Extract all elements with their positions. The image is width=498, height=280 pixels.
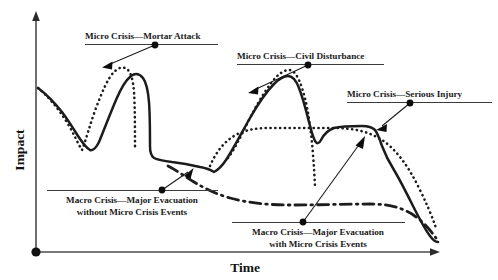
annotation-label-macro-without-micro-line2: without Micro Crisis Events — [77, 207, 188, 217]
annotation-arrowhead-mortar-attack — [102, 62, 113, 70]
annotation-leader-serious-injury — [382, 103, 410, 126]
annotation-arrowhead-civil-disturbance — [248, 87, 259, 95]
annotation-arrowhead-serious-injury — [376, 124, 387, 132]
annotation-label-macro-without-micro-line1: Macro Crisis—Major Evacuation — [66, 195, 198, 205]
x-axis-title: Time — [230, 260, 260, 275]
annotation-label-serious-injury: Micro Crisis—Serious Injury — [347, 89, 463, 99]
annotation-anchor-dot-macro-without-micro — [159, 187, 166, 194]
annotation-anchor-dot-serious-injury — [407, 100, 414, 107]
annotation-label-civil-disturbance: Micro Crisis—Civil Disturbance — [237, 51, 364, 61]
annotation-leader-macro-with-micro — [303, 142, 361, 222]
annotation-leader-civil-disturbance — [254, 65, 308, 90]
chart-canvas: Impact Time Micro Crisis—Mortar Attack — [0, 0, 498, 280]
curve-dotted-segment-3 — [210, 128, 436, 228]
annotation-civil-disturbance: Micro Crisis—Civil Disturbance — [237, 51, 384, 95]
annotation-label-mortar-attack: Micro Crisis—Mortar Attack — [85, 31, 201, 41]
crisis-impact-chart: Impact Time Micro Crisis—Mortar Attack — [0, 0, 498, 280]
annotation-label-macro-with-micro-line1: Macro Crisis—Major Evacuation — [252, 227, 384, 237]
annotation-leader-macro-without-micro — [162, 172, 188, 190]
annotation-anchor-dot-macro-with-micro — [300, 219, 307, 226]
y-axis-arrowhead — [32, 11, 40, 21]
annotation-anchor-dot-civil-disturbance — [305, 62, 312, 69]
axes-group — [31, 11, 440, 257]
curve-dotted-segment-1 — [38, 68, 135, 150]
annotation-label-macro-with-micro-line2: with Micro Crisis Events — [269, 239, 367, 249]
annotation-macro-without-micro: Macro Crisis—Major Evacuation without Mi… — [47, 168, 218, 217]
annotation-mortar-attack: Micro Crisis—Mortar Attack — [85, 31, 218, 70]
origin-dot — [31, 247, 40, 256]
y-axis-title: Impact — [12, 129, 27, 171]
annotation-leader-mortar-attack — [108, 45, 155, 65]
x-axis-arrowhead — [430, 248, 440, 256]
annotation-anchor-dot-mortar-attack — [152, 42, 159, 49]
annotation-macro-with-micro: Macro Crisis—Major Evacuation with Micro… — [232, 136, 405, 249]
